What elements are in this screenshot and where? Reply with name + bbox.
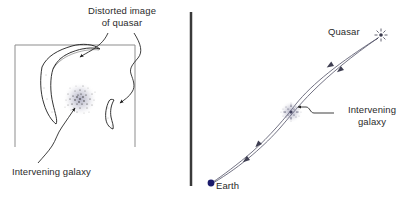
title-distorted-image-of-quasar: Distorted imageof quasar [66,5,178,28]
figure-canvas: Distorted imageof quasar Intervening gal… [0,0,410,198]
title-line-2: of quasar [102,17,143,28]
label-intervening-galaxy-right: Interveninggalaxy [336,104,408,127]
label-intervening-line-2: galaxy [358,116,386,127]
label-quasar: Quasar [328,26,374,38]
lensing-galaxy-blob [63,82,97,116]
title-line-1: Distorted image [88,5,156,16]
left-panel-group [15,33,141,163]
distorted-quasar-arc-small [106,99,114,129]
leader-line-intervening-galaxy [38,108,75,163]
caption-intervening-galaxy-left: Intervening galaxy [12,166,132,178]
label-intervening-line-1: Intervening [348,104,396,115]
intervening-galaxy-marker [280,101,302,123]
leader-line-right-galaxy [298,107,334,113]
earth-marker [208,180,215,187]
label-earth: Earth [216,180,260,192]
leader-line-small-arc [120,33,141,103]
